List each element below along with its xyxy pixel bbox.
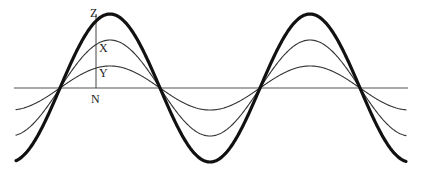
label-n: N: [91, 92, 100, 106]
label-y: Y: [99, 66, 108, 80]
wave-diagram: Z X Y N: [0, 0, 421, 179]
label-x: X: [99, 41, 108, 55]
label-z: Z: [90, 6, 97, 20]
